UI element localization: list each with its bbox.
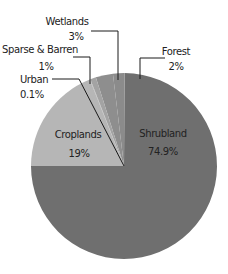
sparse-barren-label: Sparse & Barren bbox=[2, 44, 78, 55]
sparse-barren-value: 1% bbox=[38, 61, 53, 72]
shrubland-value: 74.9% bbox=[148, 146, 178, 157]
urban-value: 0.1% bbox=[20, 89, 44, 100]
forest-label: Forest bbox=[162, 46, 191, 57]
forest-value: 2% bbox=[168, 61, 183, 72]
urban-label: Urban bbox=[20, 74, 48, 85]
croplands-label: Croplands bbox=[55, 129, 102, 140]
wetlands-label: Wetlands bbox=[46, 16, 89, 27]
wetlands-leader-line bbox=[91, 31, 118, 80]
land-cover-pie-chart: Wetlands 3% Sparse & Barren 1% Urban 0.1… bbox=[0, 0, 228, 274]
sparse-barren-leader-line bbox=[73, 57, 90, 84]
croplands-value: 19% bbox=[68, 148, 89, 159]
wetlands-value: 3% bbox=[68, 31, 83, 42]
shrubland-label: Shrubland bbox=[139, 128, 187, 139]
